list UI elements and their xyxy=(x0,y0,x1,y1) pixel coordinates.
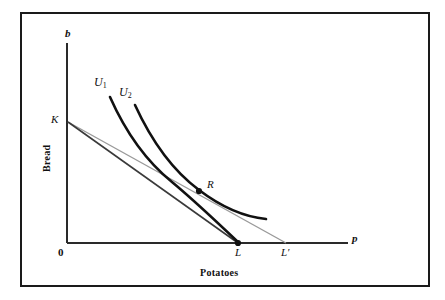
plot-canvas xyxy=(0,0,445,300)
indifference-curve-u2 xyxy=(135,105,266,219)
point-label-r: R xyxy=(207,179,214,190)
point-r-marker xyxy=(196,188,202,194)
curve-label-u1-subscript: 1 xyxy=(103,81,107,90)
curve-label-u1: U1 xyxy=(94,76,107,88)
x-axis-variable-label: p xyxy=(352,233,358,244)
point-label-l-prime: L′ xyxy=(281,247,290,258)
point-label-l: L xyxy=(235,247,241,258)
budget-line-k-lprime xyxy=(68,122,286,243)
point-label-k: K xyxy=(51,114,58,125)
y-axis-variable-label: b xyxy=(65,28,71,39)
y-axis-title: Bread xyxy=(42,145,52,172)
curve-label-u1-base: U xyxy=(94,75,103,89)
x-axis-title: Potatoes xyxy=(200,268,239,278)
indifference-curve-u1 xyxy=(110,97,239,243)
origin-label: 0 xyxy=(58,247,64,258)
figure-root: b p 0 K L L′ R U1 U2 Bread Potatoes xyxy=(0,0,445,300)
curve-label-u2-subscript: 2 xyxy=(128,91,132,100)
curve-label-u2-base: U xyxy=(119,85,128,99)
curve-label-u2: U2 xyxy=(119,86,132,98)
